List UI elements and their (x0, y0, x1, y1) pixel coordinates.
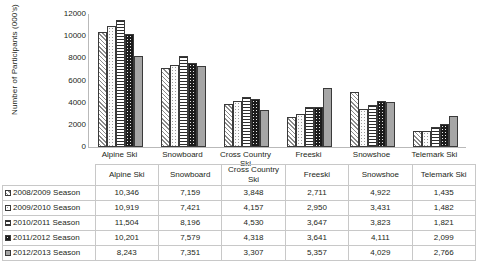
table-cell: 4,029 (349, 246, 412, 261)
legend-entry-label: 2010/2011 Season (13, 218, 80, 227)
table-cell: 7,159 (158, 186, 221, 201)
table-cell: 2,766 (412, 246, 475, 261)
table-cell: 10,919 (95, 201, 158, 216)
y-axis-tick-label: 2000 (48, 121, 86, 129)
table-column-header: Alpine Ski (95, 165, 158, 186)
legend-entry-label: 2009/2010 Season (13, 203, 80, 212)
bar-group (215, 14, 278, 147)
table-column-header: Freeski (285, 165, 348, 186)
table-cell: 4,157 (222, 201, 285, 216)
y-axis-tick-label: 0 (48, 143, 86, 151)
table-cell: 10,201 (95, 231, 158, 246)
bar (296, 114, 305, 147)
table-cell: 3,307 (222, 246, 285, 261)
table-column-header: Snowboard (158, 165, 221, 186)
bar (251, 99, 260, 147)
bar (224, 104, 233, 147)
bar (242, 97, 251, 147)
table-cell: 7,421 (158, 201, 221, 216)
legend-swatch-icon (5, 220, 11, 226)
bar-group (341, 14, 404, 147)
table-row: 2008/2009 Season10,3467,1593,8482,7114,9… (3, 186, 476, 201)
y-axis-tick-label: 8000 (48, 54, 86, 62)
table-cell: 11,504 (95, 216, 158, 231)
table-cell: 1,435 (412, 186, 475, 201)
legend-entry-label: 2011/2012 Season (13, 233, 80, 242)
bar (323, 88, 332, 147)
bar (386, 102, 395, 147)
table-cell: 3,641 (285, 231, 348, 246)
legend-entry: 2009/2010 Season (3, 201, 96, 216)
bar (359, 109, 368, 147)
legend-entry: 2011/2012 Season (3, 231, 96, 246)
plot-area (88, 14, 466, 148)
bar (188, 63, 197, 147)
table-row: 2012/2013 Season8,2437,3513,3075,3574,02… (3, 246, 476, 261)
x-axis-tick-label: Freeski (277, 150, 340, 159)
legend-entry: 2012/2013 Season (3, 246, 96, 261)
bar (98, 32, 107, 147)
legend-swatch-icon (5, 190, 11, 196)
table-corner-cell (3, 165, 96, 186)
chart-figure: Number of Participants (000's) 020004000… (0, 0, 478, 264)
bar (107, 26, 116, 147)
table-cell: 8,243 (95, 246, 158, 261)
bar-chart: Number of Participants (000's) 020004000… (0, 0, 478, 160)
table-cell: 7,351 (158, 246, 221, 261)
bar-group (89, 14, 152, 147)
table-row: 2011/2012 Season10,2017,5794,3183,6414,1… (3, 231, 476, 246)
bar (170, 65, 179, 147)
bar-group (152, 14, 215, 147)
y-axis-tick-label: 10000 (48, 32, 86, 40)
table-cell: 3,647 (285, 216, 348, 231)
legend-swatch-icon (5, 205, 11, 211)
legend-entry-label: 2008/2009 Season (13, 188, 80, 197)
bar (260, 110, 269, 147)
table-cell: 2,711 (285, 186, 348, 201)
table-cell: 4,922 (349, 186, 412, 201)
bar (422, 131, 431, 147)
table-row: 2010/2011 Season11,5048,1964,5303,6473,8… (3, 216, 476, 231)
table-body: 2008/2009 Season10,3467,1593,8482,7114,9… (3, 186, 476, 261)
table-cell: 3,823 (349, 216, 412, 231)
y-axis-tick-label: 12000 (48, 10, 86, 18)
table-cell: 3,848 (222, 186, 285, 201)
table-row: 2009/2010 Season10,9197,4214,1572,9503,4… (3, 201, 476, 216)
bar-group (278, 14, 341, 147)
x-axis-tick-label: Alpine Ski (88, 150, 151, 159)
x-axis-tick-label: Snowboard (151, 150, 214, 159)
bar (161, 68, 170, 147)
table-cell: 1,821 (412, 216, 475, 231)
table-cell: 5,357 (285, 246, 348, 261)
legend-entry-label: 2012/2013 Season (13, 248, 80, 257)
bar (449, 116, 458, 147)
table-column-header: Snowshoe (349, 165, 412, 186)
bar (413, 131, 422, 147)
table-cell: 1,482 (412, 201, 475, 216)
table-column-header: Cross Country Ski (222, 165, 285, 186)
table-header-row: Alpine SkiSnowboardCross Country SkiFree… (3, 165, 476, 186)
bar (116, 20, 125, 148)
legend-entry: 2010/2011 Season (3, 216, 96, 231)
table-cell: 4,318 (222, 231, 285, 246)
bar (314, 107, 323, 147)
bar (377, 101, 386, 147)
bar (125, 34, 134, 147)
bar (350, 92, 359, 147)
y-axis-tick-label: 4000 (48, 99, 86, 107)
y-axis-title: Number of Participants (000's) (10, 0, 19, 130)
table-cell: 10,346 (95, 186, 158, 201)
table-cell: 8,196 (158, 216, 221, 231)
y-axis-ticks: 020004000600080001000012000 (48, 10, 86, 152)
bar (233, 101, 242, 147)
data-table: Alpine SkiSnowboardCross Country SkiFree… (2, 164, 476, 261)
bar (287, 117, 296, 147)
bar (431, 127, 440, 147)
y-axis-tick-label: 6000 (48, 77, 86, 85)
x-axis-tick-label: Telemark Ski (403, 150, 466, 159)
legend-entry: 2008/2009 Season (3, 186, 96, 201)
bar (305, 107, 314, 147)
legend-swatch-icon (5, 235, 11, 241)
table-cell: 7,579 (158, 231, 221, 246)
table-cell: 2,950 (285, 201, 348, 216)
